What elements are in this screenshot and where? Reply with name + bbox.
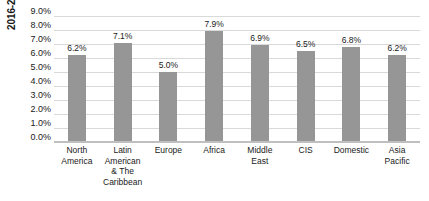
y-axis-tick-label: 3.0% <box>18 91 51 100</box>
bar-slot: 6.9% <box>237 16 283 142</box>
x-axis-category-label: CIS <box>283 145 329 199</box>
bar-value-label: 6.8% <box>329 36 375 45</box>
bar-value-label: 7.1% <box>100 32 146 41</box>
bar-slot: 6.8% <box>329 16 375 142</box>
y-axis-tick-label: 4.0% <box>18 77 51 86</box>
bar[interactable] <box>388 55 406 142</box>
y-axis-tick-label: 2.0% <box>18 105 51 114</box>
y-axis-tick-label: 0.0% <box>18 133 51 142</box>
x-axis-category-label: Africa <box>191 145 237 199</box>
y-axis-tick-label: 8.0% <box>18 21 51 30</box>
y-axis-tick-labels: 9.0%8.0%7.0%6.0%5.0%4.0%3.0%2.0%1.0%0.0% <box>18 11 51 143</box>
bar[interactable] <box>342 47 360 142</box>
x-axis-category-label: North America <box>54 145 100 199</box>
bar-value-label: 6.9% <box>237 34 283 43</box>
x-axis-category-label: Domestic <box>329 145 375 199</box>
bar[interactable] <box>297 51 315 142</box>
bar-slot: 6.2% <box>54 16 100 142</box>
bar[interactable] <box>251 45 269 142</box>
x-axis-category-label: Middle East <box>237 145 283 199</box>
bar-value-label: 6.2% <box>374 44 420 53</box>
axis-baseline <box>54 141 420 142</box>
bar[interactable] <box>68 55 86 142</box>
bar[interactable] <box>205 31 223 142</box>
y-axis-tick-label: 7.0% <box>18 35 51 44</box>
y-axis-tick-label: 9.0% <box>18 7 51 16</box>
x-axis-category-label: Europe <box>146 145 192 199</box>
bar-chart: 2016-2034 O&D Traffic CAGR 9.0%8.0%7.0%6… <box>0 0 429 201</box>
bar[interactable] <box>114 43 132 142</box>
bar-value-label: 6.2% <box>54 44 100 53</box>
x-axis-category-label: Latin American & The Caribbean <box>100 145 146 199</box>
bar-slot: 6.2% <box>374 16 420 142</box>
y-axis-tick-label: 5.0% <box>18 63 51 72</box>
x-axis-category-labels: North AmericaLatin American & The Caribb… <box>54 145 420 199</box>
y-axis-tick-label: 6.0% <box>18 49 51 58</box>
plot-area: 6.2%7.1%5.0%7.9%6.9%6.5%6.8%6.2% <box>54 16 420 142</box>
bar-value-label: 7.9% <box>191 20 237 29</box>
gridline <box>54 142 420 143</box>
bar-slot: 7.1% <box>100 16 146 142</box>
bar-slot: 5.0% <box>146 16 192 142</box>
bar-slot: 7.9% <box>191 16 237 142</box>
bars-layer: 6.2%7.1%5.0%7.9%6.9%6.5%6.8%6.2% <box>54 16 420 142</box>
bar-value-label: 6.5% <box>283 40 329 49</box>
x-axis-category-label: Asia Pacific <box>374 145 420 199</box>
bar-slot: 6.5% <box>283 16 329 142</box>
bar[interactable] <box>159 72 177 142</box>
y-axis-tick-label: 1.0% <box>18 119 51 128</box>
bar-value-label: 5.0% <box>146 61 192 70</box>
